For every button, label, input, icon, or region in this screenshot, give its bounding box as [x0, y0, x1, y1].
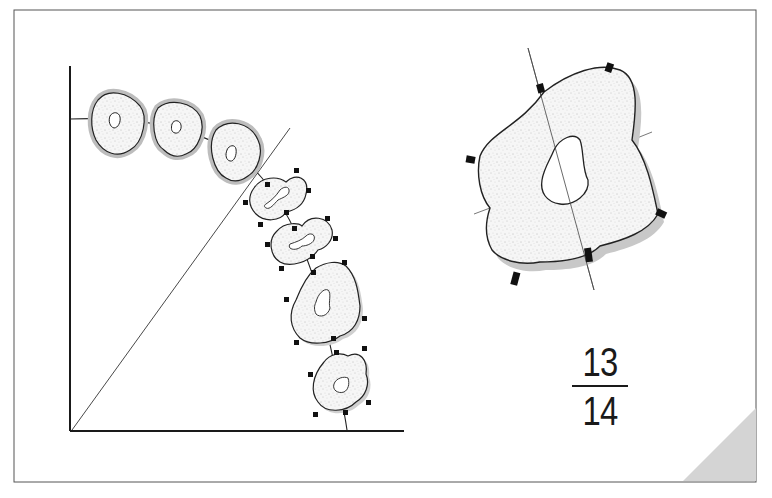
fraction-bar: [572, 385, 628, 387]
marked-shape-3: [284, 260, 367, 346]
page-number-fraction: 13 14: [565, 342, 635, 431]
corner-fold: [683, 408, 756, 481]
figure-canvas: 13 14: [0, 0, 772, 498]
fraction-denominator: 14: [571, 391, 628, 431]
haloed-shape-3: [211, 123, 260, 181]
fraction-numerator: 13: [571, 342, 628, 382]
marked-shape-4: [308, 346, 371, 417]
enlarged-shape: [466, 48, 668, 290]
haloed-shape-2: [154, 102, 202, 156]
illustration: [0, 0, 772, 498]
haloed-shape-1: [92, 93, 144, 154]
page-frame: [14, 10, 756, 482]
